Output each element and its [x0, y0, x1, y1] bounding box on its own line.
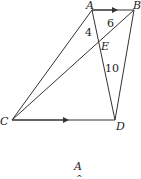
geometry-diagram: A B C D E 4 6 10 A ^ — [0, 0, 141, 179]
point-label-d: D — [115, 120, 125, 133]
caret-mark: ^ — [76, 173, 83, 179]
footer-label: A — [73, 160, 82, 173]
point-label-b: B — [132, 0, 141, 12]
measure-ae: 4 — [85, 26, 92, 39]
point-label-e: E — [100, 40, 109, 53]
measure-eb: 6 — [107, 17, 114, 30]
measure-ed: 10 — [105, 62, 119, 75]
point-label-a: A — [85, 0, 94, 12]
point-label-c: C — [0, 115, 9, 128]
segment-ac — [12, 10, 92, 120]
